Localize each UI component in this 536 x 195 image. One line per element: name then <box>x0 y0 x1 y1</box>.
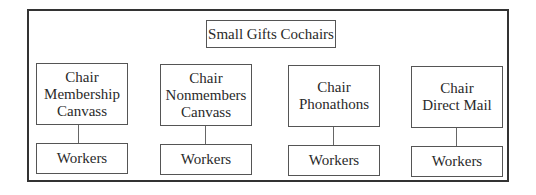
connector-line-3 <box>333 127 334 145</box>
workers-label-3: Workers <box>309 152 359 169</box>
connector-line-2 <box>205 126 206 144</box>
workers-box-2: Workers <box>160 144 252 175</box>
chair-nonmembers-canvass-label: Chair Nonmembers Canvass <box>166 70 247 121</box>
chair-membership-canvass-label: Chair Membership Canvass <box>44 69 120 120</box>
workers-box-4: Workers <box>411 146 503 177</box>
connector-line-1 <box>78 125 79 143</box>
workers-box-3: Workers <box>288 145 380 176</box>
chair-membership-canvass-box: Chair Membership Canvass <box>36 63 128 125</box>
small-gifts-cochairs-label: Small Gifts Cochairs <box>208 26 334 43</box>
workers-box-1: Workers <box>36 143 128 174</box>
workers-label-4: Workers <box>432 153 482 170</box>
connector-line-4 <box>456 128 457 146</box>
chair-phonathons-box: Chair Phonathons <box>288 65 380 127</box>
workers-label-1: Workers <box>57 150 107 167</box>
chair-direct-mail-box: Chair Direct Mail <box>411 66 503 128</box>
chair-phonathons-label: Chair Phonathons <box>299 79 369 113</box>
workers-label-2: Workers <box>181 151 231 168</box>
chair-direct-mail-label: Chair Direct Mail <box>422 80 492 114</box>
chair-nonmembers-canvass-box: Chair Nonmembers Canvass <box>160 64 252 126</box>
small-gifts-cochairs-box: Small Gifts Cochairs <box>206 20 336 48</box>
